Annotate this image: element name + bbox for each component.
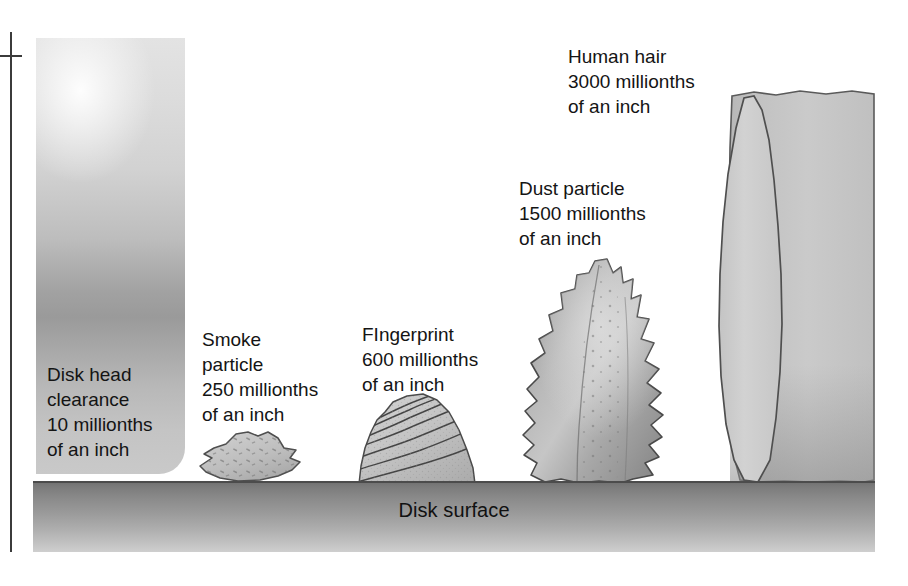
axis-tick-mark <box>0 55 22 57</box>
disk-head-caption: Disk head clearance 10 millionths of an … <box>47 362 153 462</box>
smoke-particle-caption: Smoke particle 250 millionths of an inch <box>202 327 318 427</box>
human-hair-caption: Human hair 3000 millionths of an inch <box>568 44 695 119</box>
disk-head-block: Disk head clearance 10 millionths of an … <box>36 38 185 474</box>
disk-surface-band: Disk surface <box>33 481 875 552</box>
axis-vertical-line <box>10 32 12 552</box>
human-hair-shape <box>714 88 876 488</box>
smoke-particle-shape <box>192 424 308 484</box>
fingerprint-shape <box>355 392 477 486</box>
scale-diagram: Disk head clearance 10 millionths of an … <box>0 0 908 586</box>
dust-particle-shape <box>521 257 669 485</box>
fingerprint-caption: FIngerprint 600 millionths of an inch <box>362 322 478 397</box>
dust-particle-caption: Dust particle 1500 millionths of an inch <box>519 176 646 251</box>
disk-surface-label: Disk surface <box>33 481 875 522</box>
